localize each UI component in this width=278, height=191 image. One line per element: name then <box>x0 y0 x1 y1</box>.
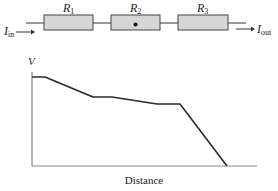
label-r3: R3 <box>196 1 208 16</box>
x-axis-label: Distance <box>125 174 164 186</box>
circuit-and-potential-diagram: R1 R2 R3 Iin Iout V Distance <box>0 0 278 191</box>
arrow-right-icon <box>236 27 255 32</box>
label-r2: R2 <box>129 1 141 16</box>
y-axis-label: V <box>28 55 36 67</box>
resistor-r3 <box>178 15 228 30</box>
label-r1: R1 <box>62 1 74 16</box>
potential-graph: V Distance <box>28 55 257 186</box>
resistor-r1 <box>44 15 93 30</box>
circuit: R1 R2 R3 Iin Iout <box>3 1 272 39</box>
label-current-in: Iin <box>3 24 14 39</box>
arrow-right-icon <box>16 30 35 35</box>
potential-curve <box>32 77 227 166</box>
point-dot-icon <box>134 23 138 27</box>
label-current-out: Iout <box>256 22 272 37</box>
